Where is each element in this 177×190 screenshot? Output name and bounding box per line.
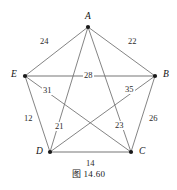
graph-vertex-d <box>48 150 52 154</box>
graph-vertex-a <box>86 25 90 29</box>
edge-weight-cd: 14 <box>85 159 96 168</box>
graph-edge-ae <box>25 27 88 76</box>
vertex-label-d: D <box>36 147 43 157</box>
edge-weight-ab: 22 <box>127 37 138 46</box>
graph-edge-ec <box>25 76 131 152</box>
graph-vertex-c <box>129 150 133 154</box>
graph-vertex-b <box>153 74 157 78</box>
vertex-label-c: C <box>139 147 145 157</box>
edge-weight-ae: 24 <box>39 37 50 46</box>
edge-weight-eb: 28 <box>83 71 94 80</box>
graph-edge-db <box>50 76 155 152</box>
vertex-label-a: A <box>85 12 91 22</box>
edge-weight-ad: 21 <box>54 122 65 131</box>
edge-weight-ac: 23 <box>114 121 125 130</box>
vertex-label-b: B <box>163 70 169 80</box>
graph-edge-ad <box>50 27 88 152</box>
edge-weight-db: 35 <box>124 85 135 94</box>
graph-vertex-e <box>23 74 27 78</box>
figure-container: ABCDE 24222614122831352123 图 14.60 <box>0 0 177 190</box>
vertex-label-e: E <box>11 70 17 80</box>
figure-caption: 图 14.60 <box>0 170 177 179</box>
edge-weight-ec: 31 <box>42 86 53 95</box>
graph-edge-ab <box>88 27 155 76</box>
edge-weight-bc: 26 <box>148 114 159 123</box>
edge-weight-de: 12 <box>23 114 34 123</box>
